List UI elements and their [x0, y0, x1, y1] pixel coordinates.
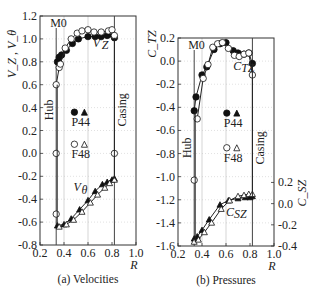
x-axis-title: R — [267, 259, 276, 273]
y-tick-label: -0.2 — [18, 169, 37, 183]
csz-series-sub: SZ — [234, 207, 247, 221]
y-tick-label: -0.4 — [156, 100, 175, 114]
data-point — [85, 27, 91, 33]
x-tick-label: 0.2 — [33, 246, 48, 260]
data-point — [219, 39, 225, 45]
x-tick-label: 0.4 — [195, 247, 210, 261]
ctz-series-sub: TZ — [241, 61, 255, 75]
y-right-tick-label: 0.0 — [278, 197, 293, 211]
casing-label: Casing — [253, 131, 267, 164]
x-tick-label: 0.8 — [243, 247, 258, 261]
legend-label: P44 — [71, 115, 90, 129]
y-tick-label: 0.2 — [22, 124, 37, 138]
legend-label: P44 — [224, 116, 243, 130]
y-tick-label: 0.8 — [22, 55, 37, 69]
y-tick-label: 0.0 — [160, 54, 175, 68]
data-point — [53, 211, 59, 217]
data-point — [225, 45, 231, 51]
y-tick-label: -0.4 — [18, 192, 37, 206]
data-point — [62, 45, 68, 51]
data-point — [85, 33, 91, 39]
data-point — [205, 61, 211, 67]
y-right-axis-title: C_SZ — [295, 179, 309, 206]
mode-label: M0 — [50, 16, 67, 30]
y-tick-label: 0.2 — [160, 31, 175, 45]
data-point — [111, 32, 117, 38]
x-tick-label: 0.4 — [57, 246, 72, 260]
y-right-tick-label: -0.4 — [278, 239, 297, 253]
y-axis-title: V_Z , V_θ — [5, 30, 19, 78]
y-tick-label: -0.2 — [156, 77, 175, 91]
mode-label: M0 — [188, 38, 205, 52]
y-tick-label: -1.2 — [156, 193, 175, 207]
y-right-tick-label: -0.2 — [278, 218, 297, 232]
y-tick-label: 0.6 — [22, 78, 37, 92]
y-tick-label: -1.0 — [156, 170, 175, 184]
legend-label: F48 — [71, 147, 90, 161]
casing-label: Casing — [115, 93, 129, 126]
x-tick-label: 0.6 — [81, 246, 96, 260]
y-axis-title: C_TZ — [145, 30, 159, 58]
x-tick-label: 0.2 — [171, 247, 186, 261]
y-tick-label: -0.8 — [156, 147, 175, 161]
y-tick-label: -0.6 — [156, 123, 175, 137]
y-tick-label: 1.0 — [22, 32, 37, 46]
y-tick-label: -0.6 — [18, 215, 37, 229]
data-point — [246, 50, 252, 56]
data-point — [98, 29, 104, 35]
data-point — [75, 36, 81, 42]
y-tick-label: 0.4 — [22, 101, 37, 115]
chart-caption: (b) Pressures — [196, 274, 256, 287]
data-point — [193, 94, 199, 100]
data-point — [68, 36, 74, 42]
vz-series-sub: Z — [102, 38, 109, 52]
data-point — [53, 82, 59, 88]
y-tick-label: 1.2 — [22, 9, 37, 23]
hub-label: Hub — [42, 100, 56, 121]
y-right-tick-label: 0.2 — [278, 175, 293, 189]
y-tick-label: -1.4 — [156, 216, 175, 230]
hub-label: Hub — [180, 137, 194, 158]
y-tick-label: 0.0 — [22, 146, 37, 160]
figure: V_Z , V_θ-0.8-0.6-0.4-0.20.00.20.40.60.8… — [0, 0, 315, 288]
data-point — [53, 150, 59, 156]
x-axis-title: R — [129, 258, 138, 272]
data-point — [91, 29, 97, 35]
x-tick-label: 0.8 — [105, 246, 120, 260]
x-tick-label: 0.6 — [219, 247, 234, 261]
data-point — [79, 28, 85, 34]
vtheta-series-sub: θ — [82, 183, 88, 197]
data-point — [57, 61, 63, 67]
data-point — [191, 177, 197, 183]
legend-label: F48 — [224, 151, 243, 165]
data-point — [200, 75, 206, 81]
data-point — [217, 202, 223, 208]
data-point — [191, 108, 197, 114]
chart-caption: (a) Velocities — [58, 273, 119, 286]
